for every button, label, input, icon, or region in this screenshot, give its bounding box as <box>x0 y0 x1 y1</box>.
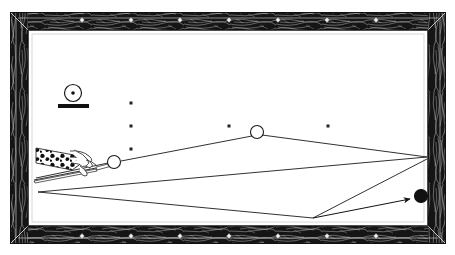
billiards-diagram <box>0 0 455 255</box>
rail-right <box>428 13 445 243</box>
diagram-canvas <box>0 0 455 255</box>
table-spot <box>130 148 133 151</box>
rail-left <box>11 13 28 243</box>
spin-indicator-center-dot <box>71 91 75 95</box>
black-object-ball <box>415 190 428 203</box>
cue-ball <box>108 156 121 169</box>
table-spot <box>130 125 133 128</box>
table-spot <box>228 125 231 128</box>
second-white-ball <box>251 126 264 139</box>
table-frame <box>11 13 446 244</box>
spin-indicator-bar <box>58 104 89 108</box>
table-spot <box>130 102 133 105</box>
table-spot <box>327 125 330 128</box>
